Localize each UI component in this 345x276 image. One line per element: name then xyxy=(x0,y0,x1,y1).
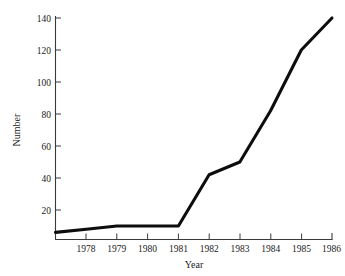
x-label-1978: 1978 xyxy=(77,244,96,254)
y-tick-labels: 140 120 100 80 60 40 20 xyxy=(37,14,52,216)
data-series-line xyxy=(56,18,333,232)
axes-group xyxy=(55,16,333,240)
y-axis-title: Number xyxy=(11,113,22,146)
y-label-120: 120 xyxy=(37,46,52,56)
y-tick-group xyxy=(56,18,62,210)
x-label-1979: 1979 xyxy=(107,244,126,254)
y-label-140: 140 xyxy=(37,14,52,24)
x-label-1981: 1981 xyxy=(169,244,188,254)
y-label-40: 40 xyxy=(42,174,52,184)
x-label-1984: 1984 xyxy=(261,244,280,254)
x-tick-group xyxy=(86,234,302,240)
x-label-1983: 1983 xyxy=(231,244,250,254)
y-label-100: 100 xyxy=(37,78,52,88)
x-label-1980: 1980 xyxy=(138,244,157,254)
y-label-80: 80 xyxy=(42,110,52,120)
line-chart-figure: 140 120 100 80 60 40 20 1978 1979 1980 1… xyxy=(0,0,345,276)
x-label-1985: 1985 xyxy=(292,244,311,254)
x-label-1986: 1986 xyxy=(322,244,341,254)
y-label-60: 60 xyxy=(42,142,52,152)
y-label-20: 20 xyxy=(42,206,52,216)
chart-canvas: 140 120 100 80 60 40 20 1978 1979 1980 1… xyxy=(0,0,345,276)
x-tick-labels: 1978 1979 1980 1981 1982 1983 1984 1985 … xyxy=(77,244,342,254)
x-label-1982: 1982 xyxy=(200,244,219,254)
x-axis-title: Year xyxy=(185,259,204,270)
